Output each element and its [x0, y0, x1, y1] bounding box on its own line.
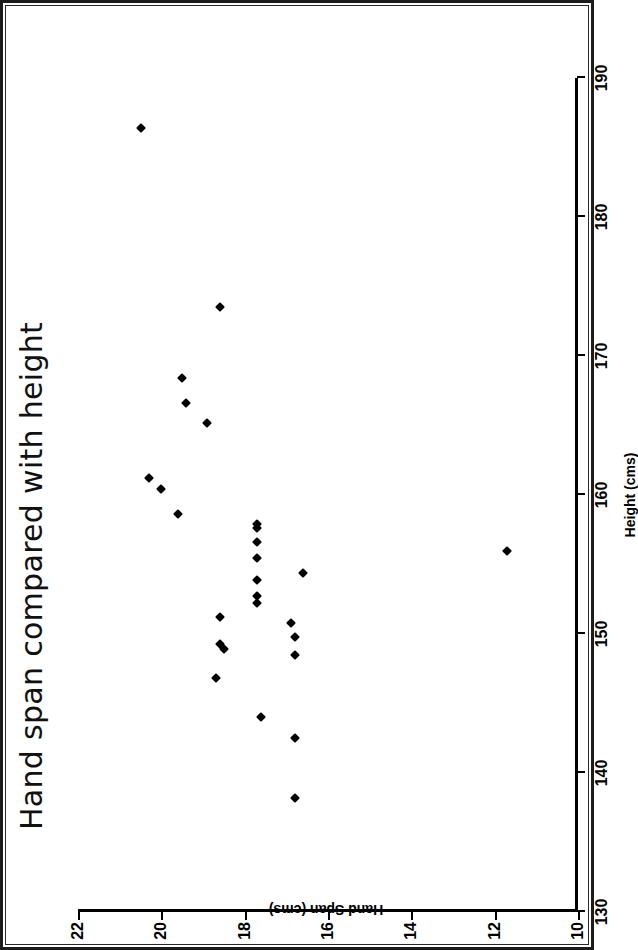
x-tick-mark: [577, 632, 585, 634]
data-point: [290, 733, 300, 743]
x-tick-label: 190: [593, 65, 611, 92]
data-point: [144, 473, 154, 483]
data-point: [252, 598, 262, 608]
x-tick-label: 130: [593, 899, 611, 926]
data-point: [181, 398, 191, 408]
y-tick-mark: [161, 911, 163, 920]
x-tick-label: 160: [593, 482, 611, 509]
x-tick-label: 170: [593, 343, 611, 370]
data-point: [211, 674, 221, 684]
y-axis-title: Hand Span (cms): [206, 902, 446, 918]
data-point: [290, 793, 300, 803]
y-tick-label: 18: [236, 922, 254, 950]
data-point: [252, 575, 262, 585]
data-point: [286, 618, 296, 628]
x-tick-label: 180: [593, 204, 611, 231]
data-point: [256, 712, 266, 722]
x-tick-mark: [577, 354, 585, 356]
chart-title: Hand span compared with height: [14, 130, 49, 830]
data-point: [136, 123, 146, 133]
y-tick-label: 12: [486, 922, 504, 950]
y-tick-label: 10: [569, 922, 587, 950]
plot-area: 130140150160170180190 10121416182022 Hei…: [78, 78, 578, 912]
x-tick-mark: [577, 76, 585, 78]
x-tick-label: 150: [593, 621, 611, 648]
data-point: [252, 537, 262, 547]
data-point: [177, 373, 187, 383]
x-tick-mark: [577, 771, 585, 773]
y-tick-label: 14: [402, 922, 420, 950]
y-tick-mark: [78, 911, 80, 920]
data-point: [156, 485, 166, 495]
y-tick-label: 22: [69, 922, 87, 950]
data-point: [502, 546, 512, 556]
y-tick-label: 20: [152, 922, 170, 950]
y-tick-mark: [495, 911, 497, 920]
data-point: [215, 612, 225, 622]
data-point: [215, 302, 225, 312]
x-axis-line: [575, 78, 578, 912]
data-point: [290, 650, 300, 660]
data-point: [173, 510, 183, 520]
data-point: [252, 553, 262, 563]
x-tick-mark: [577, 493, 585, 495]
y-tick-mark: [578, 911, 580, 920]
data-point: [298, 568, 308, 578]
x-tick-label: 140: [593, 760, 611, 787]
data-point: [290, 632, 300, 642]
x-tick-mark: [577, 215, 585, 217]
data-point: [219, 644, 229, 654]
x-axis-title: Height (cms): [622, 78, 638, 912]
data-point: [202, 418, 212, 428]
y-tick-label: 16: [319, 922, 337, 950]
